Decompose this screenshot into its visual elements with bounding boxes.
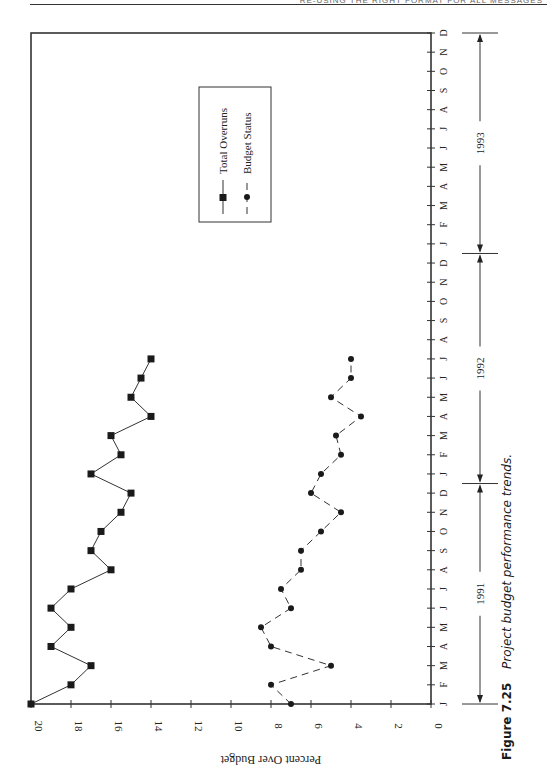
square-marker-icon — [48, 643, 55, 650]
x-tick-label: M — [438, 393, 449, 402]
circle-marker-icon — [288, 701, 294, 707]
circle-marker-icon — [318, 471, 324, 477]
circle-marker-icon — [348, 356, 354, 362]
circle-marker-icon — [338, 509, 344, 515]
y-tick-label: 0 — [433, 723, 445, 729]
x-tick-label: S — [438, 88, 449, 94]
legend-label: Total Overruns — [217, 108, 229, 174]
arrow-head-icon — [477, 254, 483, 262]
square-marker-icon — [220, 194, 227, 201]
x-tick-label: D — [438, 489, 449, 496]
circle-marker-icon — [333, 433, 339, 439]
x-tick-label: J — [438, 127, 449, 131]
square-marker-icon — [68, 585, 75, 592]
budget-trend-chart: 02468101214161820Percent Over Budget JFM… — [0, 0, 547, 784]
y-tick-label: 20 — [33, 721, 45, 733]
square-marker-icon — [138, 375, 145, 382]
x-tick-label: A — [438, 565, 449, 573]
x-tick-label: S — [438, 318, 449, 324]
square-marker-icon — [148, 355, 155, 362]
x-tick-label: M — [438, 661, 449, 670]
circle-marker-icon — [328, 394, 334, 400]
square-marker-icon — [68, 681, 75, 688]
x-tick-label: J — [438, 702, 449, 706]
percent-axis: 02468101214161820Percent Over Budget — [31, 700, 445, 767]
y-tick-label: 10 — [233, 721, 245, 733]
series-line — [261, 359, 361, 704]
square-marker-icon — [118, 509, 125, 516]
square-marker-icon — [48, 605, 55, 612]
x-tick-label: M — [438, 623, 449, 632]
x-tick-label: N — [438, 509, 449, 516]
series-line — [31, 359, 151, 704]
x-tick-label: J — [438, 472, 449, 476]
circle-marker-icon — [258, 624, 264, 630]
figure-title: Project budget performance trends. — [500, 454, 514, 669]
y-tick-label: 2 — [393, 723, 405, 729]
x-tick-label: M — [438, 201, 449, 210]
circle-marker-icon — [298, 548, 304, 554]
figure-label: Figure 7.25 — [500, 683, 514, 760]
y-tick-label: 12 — [193, 721, 205, 732]
x-tick-label: J — [438, 376, 449, 380]
square-marker-icon — [128, 394, 135, 401]
x-tick-label: F — [438, 221, 449, 227]
square-marker-icon — [108, 432, 115, 439]
circle-marker-icon — [308, 490, 314, 496]
figure-caption: Figure 7.25 Project budget performance t… — [500, 454, 514, 760]
arrow-head-icon — [477, 475, 483, 483]
y-tick-label: 6 — [313, 723, 325, 729]
x-tick-label: A — [438, 335, 449, 343]
square-marker-icon — [88, 470, 95, 477]
x-tick-label: A — [438, 642, 449, 650]
circle-marker-icon — [358, 413, 364, 419]
square-marker-icon — [28, 701, 35, 708]
circle-marker-icon — [298, 567, 304, 573]
x-tick-label: F — [438, 682, 449, 688]
y-axis-label: Percent Over Budget — [220, 753, 321, 767]
x-tick-label: F — [438, 452, 449, 458]
circle-marker-icon — [348, 375, 354, 381]
year-label: 1992 — [474, 358, 486, 380]
circle-marker-icon — [268, 682, 274, 688]
circle-marker-icon — [288, 605, 294, 611]
x-tick-label: J — [438, 606, 449, 610]
x-tick-label: D — [438, 259, 449, 266]
y-tick-label: 16 — [113, 721, 125, 733]
year-spans: 199119921993 — [462, 33, 498, 704]
x-tick-label: S — [438, 548, 449, 554]
legend-label: Budget Status — [241, 113, 253, 174]
square-marker-icon — [108, 566, 115, 573]
square-marker-icon — [148, 413, 155, 420]
x-tick-label: A — [438, 412, 449, 420]
x-tick-label: J — [438, 587, 449, 591]
y-tick-label: 8 — [273, 723, 285, 729]
x-tick-label: M — [438, 431, 449, 440]
x-tick-label: O — [438, 298, 449, 305]
circle-marker-icon — [278, 586, 284, 592]
square-marker-icon — [98, 528, 105, 535]
circle-marker-icon — [338, 452, 344, 458]
legend: Total OverrunsBudget Status — [199, 87, 271, 222]
circle-marker-icon — [268, 643, 274, 649]
y-tick-label: 4 — [353, 723, 365, 729]
square-marker-icon — [88, 662, 95, 669]
x-tick-label: J — [438, 357, 449, 361]
x-tick-label: N — [438, 49, 449, 56]
x-tick-label: M — [438, 163, 449, 172]
y-tick-label: 18 — [73, 721, 85, 733]
x-tick-label: J — [438, 242, 449, 246]
year-label: 1993 — [474, 132, 486, 155]
x-tick-label: N — [438, 279, 449, 286]
legend-box — [199, 87, 271, 222]
x-tick-label: O — [438, 68, 449, 75]
x-tick-label: A — [438, 182, 449, 190]
arrow-head-icon — [477, 485, 483, 493]
circle-marker-icon — [328, 663, 334, 669]
square-marker-icon — [128, 490, 135, 497]
circle-marker-icon — [244, 194, 250, 200]
data-series — [28, 355, 365, 707]
y-tick-label: 14 — [153, 721, 165, 733]
circle-marker-icon — [318, 528, 324, 534]
square-marker-icon — [68, 624, 75, 631]
